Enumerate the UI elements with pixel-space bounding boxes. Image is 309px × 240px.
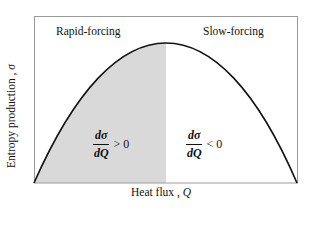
- x-axis-text: Heat flux ,: [131, 186, 180, 198]
- fraction-numerator: dσ: [93, 128, 109, 145]
- y-axis-text: Entropy production ,: [5, 73, 17, 169]
- slow-forcing-label: Slow-forcing: [203, 25, 264, 37]
- relation-greater-than-zero: > 0: [113, 137, 129, 152]
- derivative-fraction: dσ dQ: [186, 128, 202, 161]
- fraction-denominator: dQ: [187, 145, 202, 161]
- rapid-forcing-label: Rapid-forcing: [56, 25, 121, 37]
- fraction-denominator: dQ: [94, 145, 109, 161]
- relation-less-than-zero: < 0: [206, 137, 222, 152]
- positive-derivative-expression: dσ dQ > 0: [93, 128, 129, 161]
- negative-derivative-expression: dσ dQ < 0: [186, 128, 222, 161]
- y-axis-symbol: σ: [5, 64, 17, 70]
- fraction-numerator: dσ: [186, 128, 202, 145]
- derivative-fraction: dσ dQ: [93, 128, 109, 161]
- x-axis-symbol: Q: [183, 186, 191, 198]
- x-axis-label: Heat flux , Q: [131, 186, 191, 198]
- y-axis-label: Entropy production , σ: [5, 64, 17, 168]
- rapid-forcing-shaded-region: [34, 43, 166, 183]
